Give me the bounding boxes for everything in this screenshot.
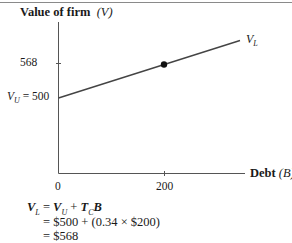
vl-line	[59, 41, 241, 99]
y-tick-label-568: 568	[20, 56, 37, 68]
equation-line-3: = $568	[43, 229, 78, 243]
line-label-vl: VL	[246, 32, 258, 48]
x-tick-label-0: 0	[55, 180, 61, 192]
x-axis-title: Debt (B)	[250, 166, 292, 181]
data-point-200-568	[161, 61, 167, 67]
y-tick-label-vu-500: VU = 500	[7, 90, 49, 105]
equation-line-2: = $500 + (0.34 × $200)	[43, 215, 160, 230]
x-tick-label-200: 200	[156, 180, 173, 192]
